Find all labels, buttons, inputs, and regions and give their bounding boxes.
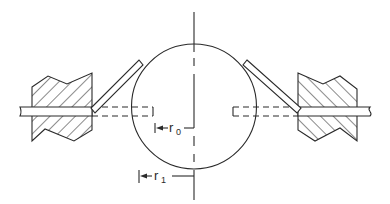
r0-label: r xyxy=(169,120,174,135)
left-dashed-extension xyxy=(92,107,153,116)
right-rod xyxy=(298,107,371,116)
r1-label: r xyxy=(154,168,159,183)
r0-dimension: r 0 xyxy=(155,120,194,137)
r0-subscript: 0 xyxy=(176,127,181,137)
diagram-canvas: r 0 r 1 xyxy=(0,0,390,204)
left-rod xyxy=(20,107,92,116)
right-dashed-extension xyxy=(233,107,298,116)
r1-dimension: r 1 xyxy=(139,168,194,185)
right-angled-strip xyxy=(243,60,301,113)
r1-subscript: 1 xyxy=(161,175,166,185)
